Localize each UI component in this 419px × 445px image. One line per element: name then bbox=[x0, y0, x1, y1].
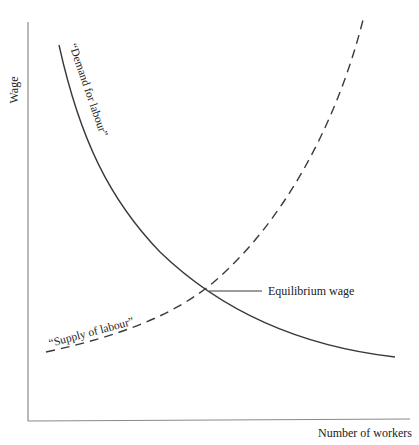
equilibrium-label: Equilibrium wage bbox=[268, 284, 354, 298]
x-axis bbox=[28, 419, 410, 421]
y-axis-label: Wage bbox=[7, 76, 21, 103]
x-axis-label: Number of workers bbox=[318, 426, 412, 440]
supply-curve-label: “Supply of labour” bbox=[47, 315, 135, 350]
demand-curve-label: “Demand for labour” bbox=[67, 42, 110, 138]
supply-curve bbox=[46, 20, 363, 352]
demand-curve bbox=[59, 45, 395, 357]
labour-market-diagram: Wage Number of workers “Demand for labou… bbox=[0, 0, 419, 445]
